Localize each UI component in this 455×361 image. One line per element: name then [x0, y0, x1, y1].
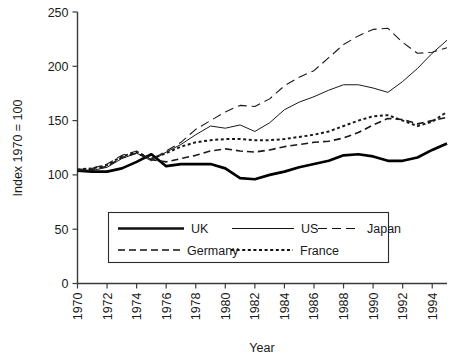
y-tick-label: 100	[48, 168, 69, 182]
legend-box	[109, 213, 389, 263]
y-tick-marks	[73, 12, 78, 284]
x-tick-label: 1988	[337, 292, 351, 320]
x-tick-label: 1970	[71, 292, 85, 320]
x-tick-label: 1994	[426, 292, 440, 320]
x-tick-labels: 1970197219741976197819801982198419861988…	[71, 292, 440, 320]
x-tick-label: 1992	[396, 292, 410, 320]
y-tick-label: 250	[48, 6, 69, 20]
x-tick-label: 1978	[189, 292, 203, 320]
x-tick-label: 1986	[307, 292, 321, 320]
y-tick-label: 0	[62, 277, 69, 291]
x-tick-label: 1990	[367, 292, 381, 320]
x-tick-label: 1980	[219, 292, 233, 320]
y-tick-labels: 050100150200250	[48, 6, 69, 292]
x-tick-label: 1984	[278, 292, 292, 320]
y-axis-title: Index 1970 = 100	[11, 99, 25, 196]
line-chart: 050100150200250 197019721974197619781980…	[0, 0, 455, 361]
chart-legend: UKUSJapanGermanyFrance	[109, 213, 402, 263]
y-tick-label: 50	[55, 223, 69, 237]
y-tick-label: 200	[48, 60, 69, 74]
x-tick-marks	[78, 284, 433, 289]
x-tick-label: 1982	[248, 292, 262, 320]
legend-label-uk: UK	[191, 222, 209, 236]
series-lines	[78, 28, 448, 179]
legend-label-japan: Japan	[367, 222, 401, 236]
x-axis-title: Year	[249, 341, 274, 355]
legend-label-us: US	[301, 222, 318, 236]
series-line-japan	[78, 28, 448, 169]
x-tick-label: 1972	[101, 292, 115, 320]
x-tick-label: 1974	[130, 292, 144, 320]
chart-canvas: 050100150200250 197019721974197619781980…	[0, 0, 455, 361]
series-line-uk	[78, 143, 448, 179]
x-tick-label: 1976	[160, 292, 174, 320]
legend-label-france: France	[300, 244, 339, 258]
y-tick-label: 150	[48, 114, 69, 128]
